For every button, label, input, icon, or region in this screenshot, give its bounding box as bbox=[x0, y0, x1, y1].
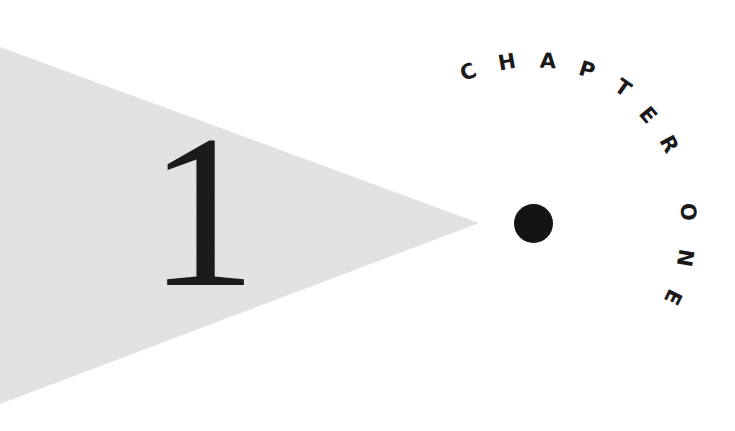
bullet-dot bbox=[514, 204, 553, 243]
heading-letter: H bbox=[490, 45, 525, 80]
chapter-opener: 1 CHAPTERONE bbox=[0, 0, 735, 431]
heading-letter: N bbox=[668, 241, 703, 276]
chapter-number: 1 bbox=[148, 112, 218, 312]
pennant-triangle bbox=[0, 0, 735, 431]
heading-letter: A bbox=[532, 45, 564, 77]
heading-letter: O bbox=[672, 196, 704, 228]
